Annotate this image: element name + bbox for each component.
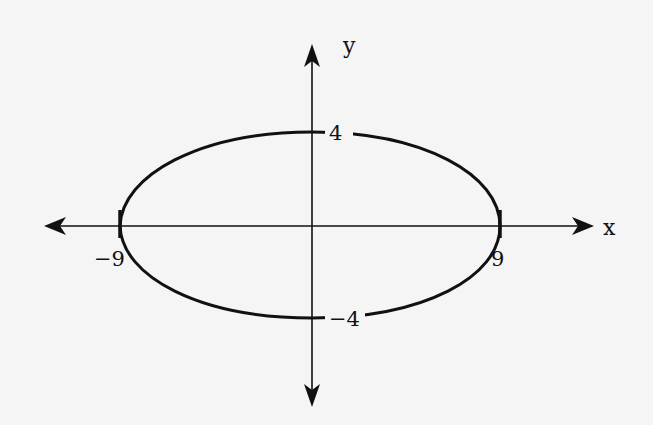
diagram-svg: y x 4 −4 −9 9 [0, 0, 653, 425]
x-axis [44, 217, 594, 235]
ellipse-curve [120, 132, 500, 318]
x-axis-label: x [603, 215, 616, 240]
intercept-label-right: 9 [491, 247, 504, 271]
y-axis-label: y [342, 33, 356, 58]
intercept-label-top: 4 [329, 121, 342, 145]
ellipse-diagram: y x 4 −4 −9 9 [0, 0, 653, 425]
intercept-label-bottom: −4 [329, 307, 360, 331]
intercept-label-left: −9 [94, 247, 125, 271]
